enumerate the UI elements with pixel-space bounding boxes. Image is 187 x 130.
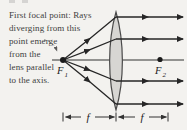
lens-ray-diagram: F 1 F 2 f f [0,0,187,130]
leader-arrow [44,40,57,51]
f1-subscript: 1 [65,71,69,79]
converging-lens [110,12,123,110]
ray-diverging-4 [63,60,116,104]
focal-length-label-left: f [86,111,91,123]
ray-diverging-1 [63,17,116,60]
f2-point [157,57,162,62]
ray-diverging-3 [63,60,116,81]
f2-label: F [154,65,162,76]
focal-length-dimension: f f [63,111,168,123]
figure-lens-first-focal-point: First focal point: Rays diverging from t… [0,0,187,130]
f1-point [60,57,66,63]
ray-diverging-2 [63,39,116,60]
f2-subscript: 2 [163,71,167,79]
f1-label: F [56,65,64,76]
focal-length-label-right: f [140,111,145,123]
